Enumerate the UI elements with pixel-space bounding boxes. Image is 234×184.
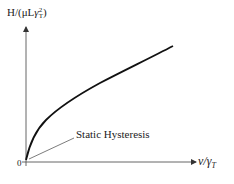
origin-label: 0	[17, 158, 22, 168]
y-axis-label: H/(μLγ2T)	[7, 6, 47, 19]
static-hysteresis-annotation: Static Hysteresis	[76, 128, 150, 140]
x-axis-label: ν/γT	[198, 154, 216, 170]
hysteresis-curve	[26, 46, 173, 160]
annotation-leader	[29, 138, 74, 159]
